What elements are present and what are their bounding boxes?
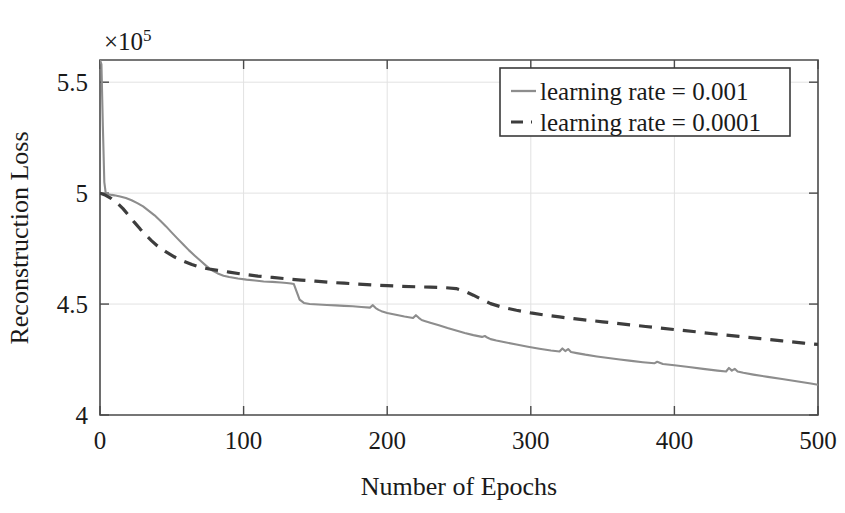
legend-entry-0[interactable]: learning rate = 0.001 [511,78,748,105]
y-axis-title: Reconstruction Loss [5,131,34,344]
y-tick-label: 4.5 [57,291,88,318]
y-exponent-power: 5 [143,26,152,45]
y-exponent-prefix: ×10 [104,28,143,55]
x-axis-title: Number of Epochs [361,472,557,501]
x-tick-label: 300 [512,427,550,454]
legend[interactable]: learning rate = 0.001 learning rate = 0.… [500,68,790,136]
y-tick-label: 5 [76,180,89,207]
x-tick-label: 100 [225,427,263,454]
x-tick-label: 400 [656,427,694,454]
legend-label-0: learning rate = 0.001 [540,78,748,105]
y-tick-label: 5.5 [57,69,88,96]
chart-svg: 44.555.5 0100200300400500 ×105 Number of… [0,0,845,513]
legend-label-1: learning rate = 0.0001 [540,109,761,136]
x-tick-label: 0 [94,427,107,454]
y-tick-label: 4 [76,402,89,429]
chart-figure: 44.555.5 0100200300400500 ×105 Number of… [0,0,845,513]
legend-entry-1[interactable]: learning rate = 0.0001 [511,109,761,136]
x-tick-label: 200 [368,427,406,454]
x-tick-label: 500 [799,427,837,454]
